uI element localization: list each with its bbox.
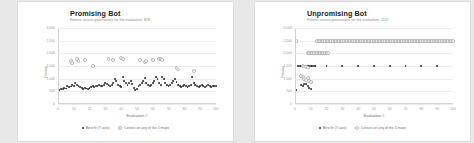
- legend-item: Losses on any of the 5 maps: [355, 126, 406, 130]
- legend-marker-icon: [355, 126, 359, 130]
- y-tick-label: 500: [286, 89, 292, 93]
- y-tick-label: 2,500: [284, 39, 293, 43]
- chart-subtitle: Fitness across generations for the evalu…: [307, 18, 389, 22]
- data-point: [91, 64, 95, 68]
- y-tick-label: 1,500: [47, 64, 56, 68]
- legend-marker-icon: [319, 127, 321, 129]
- gridline: [58, 41, 216, 42]
- legend-item: Best fit (Y axis): [319, 126, 346, 130]
- data-point: [111, 58, 115, 62]
- data-point: [309, 80, 313, 84]
- chart-panel-unpromising: Unpromising Bot Fitness across generatio…: [255, 2, 470, 141]
- chart-unpromising: Unpromising Bot Fitness across generatio…: [255, 2, 470, 141]
- x-tick-label: 30: [104, 107, 108, 111]
- chart-subtitle: Fitness across generations for the evalu…: [70, 18, 150, 22]
- x-tick-label: 50: [135, 107, 139, 111]
- x-tick-label: 80: [183, 107, 187, 111]
- chart-legend: Best fit (Y axis)Losses on any of the 5 …: [255, 126, 470, 130]
- y-tick-label: 0: [290, 102, 292, 106]
- x-tick-label: 10: [72, 107, 76, 111]
- data-point: [315, 65, 317, 67]
- data-point: [420, 65, 422, 67]
- gridline: [58, 66, 216, 67]
- x-tick-label: 90: [198, 107, 202, 111]
- legend-item: Best fit (Y axis): [82, 126, 109, 130]
- legend-marker-icon: [82, 127, 84, 129]
- gridline: [295, 79, 453, 80]
- data-point: [436, 65, 438, 67]
- gridline: [295, 28, 453, 29]
- data-point: [174, 78, 176, 80]
- x-tick-label: 40: [356, 107, 360, 111]
- y-tick-label: 2,000: [284, 51, 293, 55]
- gridline: [58, 53, 216, 54]
- data-point: [306, 66, 310, 70]
- data-point: [128, 82, 130, 84]
- legend-label: Losses on any of the 5 maps: [124, 126, 169, 130]
- data-point: [157, 78, 159, 80]
- legend-label: Best fit (Y axis): [86, 126, 109, 130]
- y-tick-label: 2,000: [47, 51, 56, 55]
- plot-area: 05001,0001,5002,0002,5003,00001020304050…: [295, 28, 453, 104]
- x-axis-label: Evaluation #: [295, 114, 453, 118]
- x-tick-label: 100: [450, 107, 456, 111]
- chart-title: Promising Bot: [70, 9, 120, 18]
- x-tick-label: 60: [151, 107, 155, 111]
- x-axis-label: Evaluation #: [58, 114, 216, 118]
- y-tick-label: 2,500: [47, 39, 56, 43]
- y-tick-label: 3,000: [284, 26, 293, 30]
- data-point: [142, 80, 144, 82]
- data-point: [151, 58, 155, 62]
- y-tick-label: 1,000: [47, 77, 56, 81]
- data-point: [73, 85, 75, 87]
- data-point: [160, 58, 164, 62]
- gridline: [58, 91, 216, 92]
- x-tick-label: 60: [388, 107, 392, 111]
- data-point: [131, 83, 133, 85]
- gridline: [295, 104, 453, 105]
- chart-panel-promising: Promising Bot Fitness across generations…: [18, 2, 233, 141]
- x-tick-label: 100: [213, 107, 219, 111]
- data-point: [405, 65, 407, 67]
- data-point: [160, 84, 162, 86]
- data-point: [357, 65, 359, 67]
- screenshot-root: Promising Bot Fitness across generations…: [0, 0, 474, 143]
- data-point: [326, 51, 330, 55]
- legend-marker-icon: [118, 126, 122, 130]
- data-point: [171, 82, 173, 84]
- data-point: [112, 82, 114, 84]
- x-tick-label: 90: [435, 107, 439, 111]
- x-tick-label: 20: [88, 107, 92, 111]
- data-point: [310, 88, 312, 90]
- x-tick-label: 50: [372, 107, 376, 111]
- data-point: [190, 84, 192, 86]
- data-point: [122, 76, 124, 78]
- data-point: [172, 80, 174, 82]
- data-point: [141, 82, 143, 84]
- data-point: [451, 39, 455, 43]
- x-tick-label: 30: [341, 107, 345, 111]
- x-tick-label: 20: [325, 107, 329, 111]
- legend-label: Losses on any of the 5 maps: [361, 126, 406, 130]
- data-point: [136, 88, 138, 90]
- data-point: [152, 82, 154, 84]
- y-tick-label: 1,500: [284, 64, 293, 68]
- gridline: [58, 28, 216, 29]
- data-point: [83, 58, 87, 62]
- data-point: [121, 57, 125, 61]
- data-point: [176, 68, 180, 72]
- gridline: [58, 104, 216, 105]
- data-point: [120, 86, 122, 88]
- data-point: [70, 61, 74, 65]
- data-point: [389, 65, 391, 67]
- chart-legend: Best fit (Y axis)Losses on any of the 5 …: [18, 126, 233, 130]
- data-point: [296, 89, 298, 91]
- x-tick-label: 80: [420, 107, 424, 111]
- data-point: [163, 78, 165, 80]
- x-tick-label: 0: [57, 107, 59, 111]
- y-tick-label: 0: [53, 102, 55, 106]
- data-point: [116, 80, 118, 82]
- gridline: [295, 91, 453, 92]
- x-tick-label: 70: [404, 107, 408, 111]
- data-point: [302, 85, 304, 87]
